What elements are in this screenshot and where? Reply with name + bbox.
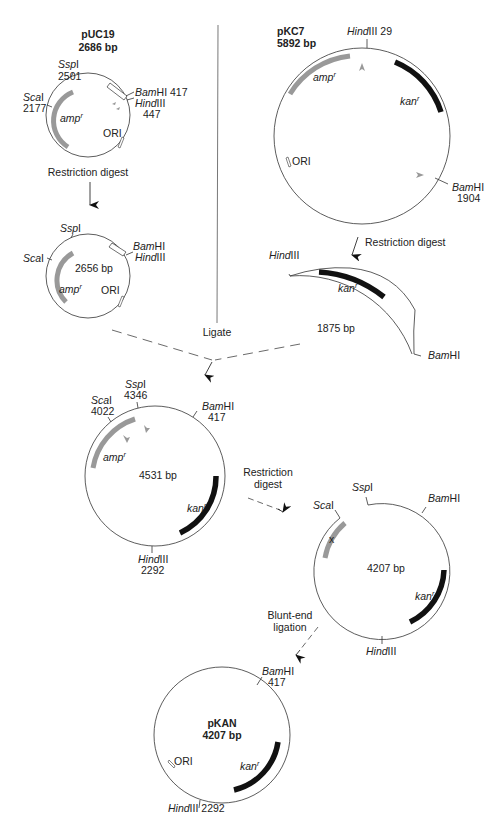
puc19-scai-pos: 2177 [23,102,47,114]
intermediate-bamhi-pos: 417 [208,411,226,423]
step-restriction-digest-3: Restriction digest [243,466,293,512]
puc19-mcs-box [107,83,127,100]
cloning-diagram: pUC19 2686 bp ORI SspI 2501 ScaI 2177 Ba… [0,0,498,838]
pkan-name: pKAN [207,717,236,729]
step-blunt-end-ligation: Blunt-end ligation [268,609,318,655]
linear4207-amp-remnant [325,523,345,558]
puc19-sspi-label: SspI [58,58,79,70]
puc19-bamhi-tick [126,92,134,96]
step-ligate: Ligate [112,326,300,375]
pkan-hindiii-label: HindIII 2292 [168,802,225,814]
intermediate-scai-tick [108,417,111,422]
step3-arrow-line [248,498,280,510]
intermediate-bamhi-tick [193,411,197,417]
intermediate-hindiii-pos: 2292 [141,564,165,576]
ligate-dash-right [215,344,300,360]
puc19-sspi-pos: 2501 [58,70,82,82]
pkan-bamhi-pos: 417 [268,676,286,688]
linear4207-sspi-label: SspI [352,481,373,493]
pkan-size: 4207 bp [202,729,241,741]
linear4207-mark-x: x [329,533,335,545]
step4-label-line2: ligation [273,621,306,633]
linear4207-size: 4207 bp [367,562,405,574]
puc19-cut-scai-label: ScaI [23,252,44,264]
pkc7-hindiii-arrowhead [359,63,365,71]
ligate-dash-left [112,330,212,360]
puc19-cut-size: 2656 bp [75,262,113,274]
step1-label: Restriction digest [48,166,129,178]
puc19-size: 2686 bp [78,41,117,53]
linear4207-bamhi-label: BamHI [428,492,460,504]
pkc7-name: pKC7 [277,25,305,37]
plasmid-linear-4207: x ScaI SspI BamHI HindIII kanr 4207 bp [313,481,460,657]
intermediate-sspi-tick [137,402,138,408]
linear4207-hindiii-label: HindIII [366,645,396,657]
puc19-cut-hindiii-label: HindIII [135,251,165,263]
pkc7-bamhi-tick [435,178,448,184]
plasmid-puc19: pUC19 2686 bp ORI SspI 2501 ScaI 2177 Ba… [23,28,188,157]
plasmid-pkan: ORI pKAN 4207 bp BamHI 417 HindIII 2292 … [154,665,294,814]
fragment-bamhi-label: BamHI [428,349,460,361]
linear4207-scai-label: ScaI [313,499,334,511]
intermediate-amp-label: ampr [103,451,126,463]
intermediate-scai-pos: 4022 [91,405,115,417]
puc19-ori-label: ORI [103,127,122,139]
puc19-scai-tick [47,105,52,107]
puc19-name: pUC19 [81,28,114,40]
fragment-hindiii-label: HindIII [269,249,299,261]
pkan-ori-label: ORI [174,755,193,767]
puc19-cut-ori-arrow-icon [118,296,124,307]
puc19-hindiii-pos: 447 [143,108,161,120]
puc19-amp-label: ampr [60,112,83,124]
puc19-cut-hindiii-tick [126,252,133,255]
puc19-backbone [46,73,130,157]
pkc7-amp-label: ampr [313,71,336,83]
step3-label-line1: Restriction [243,466,293,478]
step2-arrow [352,237,358,255]
intermediate-sspi-pos: 4346 [124,389,148,401]
step3-label-line2: digest [254,478,282,490]
puc19-cut-amp-label: ampr [59,283,82,295]
plasmid-puc19-digested: ORI SspI ScaI BamHI HindIII 2656 bp ampr [23,222,165,318]
fragment-size: 1875 bp [317,322,355,334]
step4-label-line1: Blunt-end [268,609,313,621]
pkc7-backbone [274,48,450,224]
plasmid-pkc7: pKC7 5892 bp ORI HindIII 29 BamHI 1904 a… [274,25,484,224]
pkc7-ori-label: ORI [292,155,311,167]
plasmid-intermediate-4531: ScaI 4022 SspI 4346 BamHI 417 HindIII 22… [85,378,234,576]
intermediate-arrowheads [123,425,150,443]
puc19-lac-arrows [112,102,120,110]
step2-label: Restriction digest [365,236,446,248]
ligate-arrow [205,362,212,375]
fragment-kan-label: kanr [338,282,358,294]
step4-arrow [296,650,300,655]
pkan-kan-label: kanr [240,760,260,772]
puc19-hindiii-tick [127,98,134,100]
step3-arrow [278,509,283,512]
ligate-label: Ligate [203,326,232,338]
pkc7-bamhi-arrowhead [416,172,424,178]
puc19-cut-mcs-box [109,243,126,256]
pkc7-hindiii-label: HindIII 29 [347,25,392,37]
linear4207-bamhi-tick [422,507,426,513]
puc19-cut-sspi-label: SspI [60,222,81,234]
column-divider [217,25,218,323]
pkc7-bamhi-pos: 1904 [457,192,481,204]
pkc7-size: 5892 bp [277,37,316,49]
pkc7-ori-arrow-icon [286,157,291,167]
step-restriction-digest-1: Restriction digest [48,166,129,205]
intermediate-size: 4531 bp [139,469,177,481]
step-restriction-digest-2: Restriction digest [352,236,446,255]
puc19-cut-ori-label: ORI [101,284,120,296]
pkc7-kan-label: kanr [400,95,420,107]
